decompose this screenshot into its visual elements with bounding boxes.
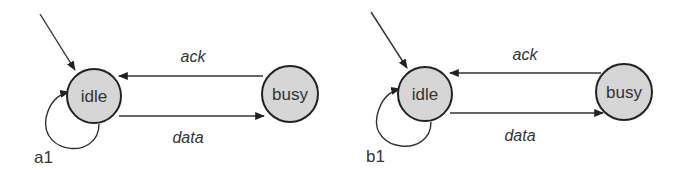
edge-label-data: data (504, 127, 535, 144)
edge-label-ack: ack (513, 46, 539, 63)
state-idle-label: idle (81, 87, 107, 106)
diagram-b1: idle busy ack data b1 (366, 12, 652, 166)
initial-arrow (371, 12, 407, 68)
initial-arrow (40, 14, 75, 70)
diagram-caption: a1 (34, 148, 53, 167)
state-busy-label: busy (272, 85, 308, 104)
edge-label-data: data (172, 129, 203, 146)
edge-label-ack: ack (181, 48, 207, 65)
state-idle-label: idle (412, 85, 438, 104)
diagram-a1: idle busy ack data a1 (34, 14, 318, 167)
state-diagrams: idle busy ack data a1 idle busy ack data… (0, 0, 681, 170)
diagram-caption: b1 (366, 147, 385, 166)
state-busy-label: busy (606, 83, 642, 102)
